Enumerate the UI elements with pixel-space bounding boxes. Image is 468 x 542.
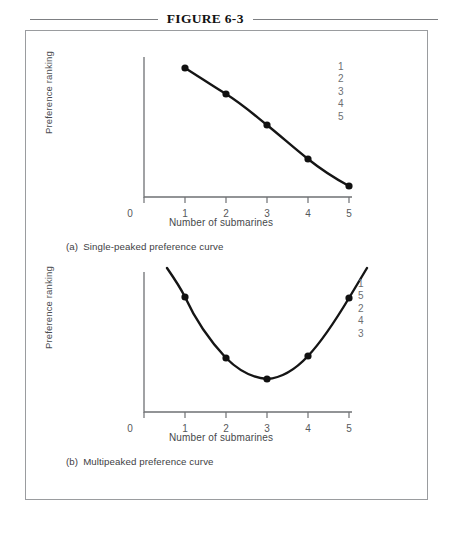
chart-multipeaked: 0 1 2 3 4 5	[26, 264, 429, 486]
chart-b-ranking-labels: 1 5 2 4 3	[358, 278, 364, 340]
header-rule-left	[30, 19, 158, 20]
chart-b-x-axis-label: Number of submarines	[121, 432, 321, 443]
chart-a-axis-lines	[144, 57, 352, 197]
chart-a-tick-marks	[144, 197, 349, 203]
chart-b-curve	[167, 268, 367, 379]
chart-a-canvas: 0 1 2 3 4 5	[26, 49, 429, 229]
chart-a-caption-tag: (a)	[66, 241, 78, 252]
chart-a-y-axis-label: Preference ranking	[43, 33, 54, 153]
ranking-label: 3	[358, 328, 364, 340]
figure-header: FIGURE 6-3	[30, 9, 438, 29]
chart-b-canvas: 0 1 2 3 4 5	[26, 264, 429, 444]
chart-a-caption: (a)Single-peaked preference curve	[66, 241, 366, 252]
chart-a-ranking-labels: 1 2 3 4 5	[338, 61, 344, 123]
ranking-label: 1	[338, 61, 344, 73]
svg-text:5: 5	[346, 208, 352, 219]
chart-single-peaked: 0 1 2 3 4 5	[26, 49, 429, 267]
chart-b-caption-text: Multipeaked preference curve	[83, 456, 213, 467]
ranking-label: 5	[338, 111, 344, 123]
figure-title: FIGURE 6-3	[167, 12, 244, 26]
chart-b-y-axis-label: Preference ranking	[43, 248, 54, 368]
svg-text:5: 5	[346, 423, 352, 434]
chart-b-tick-marks	[144, 412, 349, 418]
chart-a-x-axis-label: Number of submarines	[121, 217, 321, 228]
ranking-label: 1	[358, 278, 364, 290]
ranking-label: 4	[358, 315, 364, 327]
ranking-label: 2	[338, 73, 344, 85]
chart-b-caption-tag: (b)	[66, 456, 78, 467]
chart-b-data-points	[181, 293, 352, 382]
ranking-label: 4	[338, 98, 344, 110]
ranking-label: 5	[358, 290, 364, 302]
chart-a-caption-text: Single-peaked preference curve	[83, 241, 223, 252]
ranking-label: 2	[358, 303, 364, 315]
ranking-label: 3	[338, 86, 344, 98]
figure-frame: 0 1 2 3 4 5	[25, 30, 428, 500]
chart-b-caption: (b)Multipeaked preference curve	[66, 456, 366, 467]
figure-page: FIGURE 6-3	[0, 0, 468, 542]
header-rule-right	[253, 19, 438, 20]
